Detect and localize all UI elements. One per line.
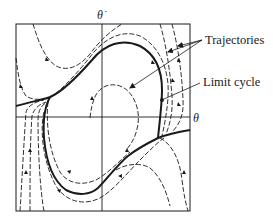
trajectory-outer-bottom: [42, 112, 164, 202]
limit-cycle-point: [160, 98, 164, 102]
trajectory-right-2: [172, 24, 183, 132]
trajectories-annotation: Trajectories: [205, 34, 264, 47]
trajectory-left-edge-upper: [16, 58, 50, 99]
trajectory-lower-middle: [116, 164, 170, 206]
theta-dot-axis-label: θ̇: [97, 9, 103, 21]
trajectory-lower-right: [160, 138, 188, 211]
trajectory-inner-bottom: [47, 102, 130, 183]
theta-axis-label: θ: [193, 112, 199, 124]
limit-cycle-annotation: Limit cycle: [203, 76, 260, 89]
